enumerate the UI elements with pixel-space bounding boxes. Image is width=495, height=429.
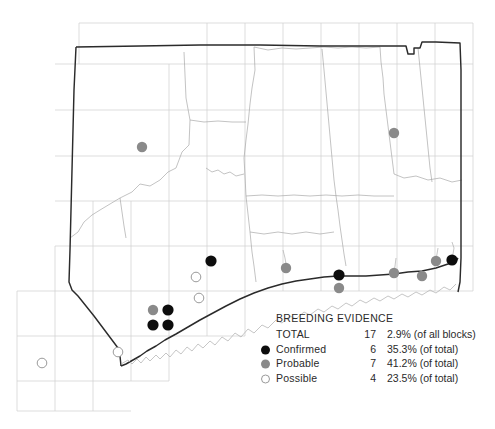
legend-symbol-cell-probable — [258, 357, 276, 372]
point-confirmed — [333, 269, 344, 280]
legend-row-total: TOTAL 17 2.9% (of all blocks) — [258, 328, 488, 343]
point-probable — [417, 271, 427, 281]
point-confirmed — [162, 319, 173, 330]
legend-symbol-total-placeholder — [258, 328, 276, 343]
legend-label-possible: Possible — [276, 372, 350, 384]
point-confirmed — [147, 319, 158, 330]
legend-symbol-cell-possible — [258, 372, 276, 387]
point-confirmed — [162, 304, 173, 315]
legend-symbol-cell-confirmed — [258, 343, 276, 358]
legend-label-total: TOTAL — [276, 328, 350, 340]
possible-dot-icon — [261, 374, 270, 383]
legend-percent-total: 2.9% (of all blocks) — [376, 328, 476, 340]
point-possible — [37, 358, 47, 368]
legend-percent-confirmed: 35.3% (of total) — [376, 343, 458, 355]
point-confirmed — [205, 255, 216, 266]
legend-row-confirmed: Confirmed 6 35.3% (of total) — [258, 343, 488, 358]
point-probable — [431, 256, 441, 266]
legend: BREEDING EVIDENCE TOTAL 17 2.9% (of all … — [258, 312, 488, 386]
point-probable — [137, 142, 147, 152]
legend-count-possible: 4 — [350, 372, 376, 384]
point-possible — [191, 272, 201, 282]
point-probable — [389, 128, 399, 138]
probable-dot-icon — [261, 360, 270, 369]
point-probable — [334, 283, 344, 293]
point-probable — [389, 268, 399, 278]
legend-title: BREEDING EVIDENCE — [276, 312, 488, 324]
point-probable — [281, 263, 291, 273]
legend-count-probable: 7 — [350, 357, 376, 369]
point-possible — [113, 347, 123, 357]
legend-label-confirmed: Confirmed — [276, 343, 350, 355]
legend-percent-probable: 41.2% (of total) — [376, 357, 458, 369]
legend-percent-possible: 23.5% (of total) — [376, 372, 458, 384]
point-probable — [148, 305, 158, 315]
point-possible — [194, 293, 204, 303]
county-boundaries — [70, 47, 462, 282]
legend-row-possible: Possible 4 23.5% (of total) — [258, 372, 488, 387]
legend-count-confirmed: 6 — [350, 343, 376, 355]
confirmed-dot-icon — [261, 345, 270, 354]
legend-row-probable: Probable 7 41.2% (of total) — [258, 357, 488, 372]
legend-label-probable: Probable — [276, 357, 350, 369]
point-confirmed — [446, 254, 457, 265]
legend-count-total: 17 — [350, 328, 376, 340]
species-distribution-map: BREEDING EVIDENCE TOTAL 17 2.9% (of all … — [0, 0, 495, 429]
